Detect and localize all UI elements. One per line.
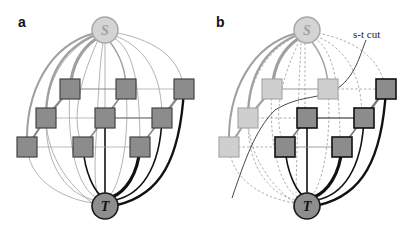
source-label: S [101, 23, 109, 38]
pixel-node [130, 137, 150, 157]
source-label-b: S [303, 23, 311, 38]
sink-label-b: T [303, 199, 313, 214]
sink-node: T [92, 193, 118, 219]
pixel-node-sink-side [275, 137, 295, 157]
pixel-node-source-side [238, 108, 258, 128]
panel-a: a [17, 14, 194, 219]
source-node: S [92, 17, 118, 43]
panel-b: b [216, 14, 396, 219]
pixel-node-source-side [219, 137, 239, 157]
pixel-node [116, 79, 136, 99]
sink-node-b: T [294, 193, 320, 219]
cut-label: s-t cut [353, 28, 380, 40]
pixel-node [152, 108, 172, 128]
pixel-node [60, 79, 80, 99]
pixel-node [95, 108, 115, 128]
pixel-node-source-side [318, 79, 338, 99]
sink-label: T [101, 199, 111, 214]
pixel-node [174, 79, 194, 99]
source-node-b: S [294, 17, 320, 43]
pixel-node [73, 137, 93, 157]
panel-b-label: b [216, 14, 225, 30]
graph-cut-figure: a [0, 0, 404, 236]
pixel-node-source-side [262, 79, 282, 99]
pixel-node-sink-side [376, 79, 396, 99]
pixel-node-sink-side [332, 137, 352, 157]
pixel-node-sink-side [297, 108, 317, 128]
pixel-node [17, 137, 37, 157]
panel-a-label: a [18, 14, 26, 30]
pixel-node-sink-side [354, 108, 374, 128]
pixel-node [36, 108, 56, 128]
